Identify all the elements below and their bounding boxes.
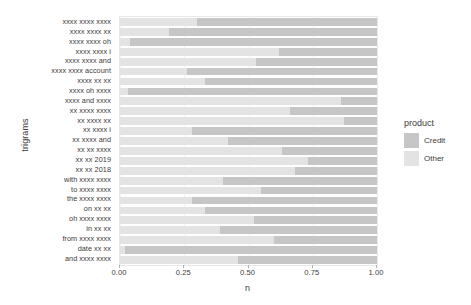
bar-segment-other <box>120 157 308 165</box>
bar-row <box>120 78 377 86</box>
x-tick-label: 0.50 <box>240 268 255 277</box>
legend-item: Credit <box>404 133 468 148</box>
bar-segment-other <box>120 117 344 125</box>
y-tick-label: xx xxxx and <box>18 136 114 143</box>
bar-row <box>120 216 377 224</box>
y-tick-label: xxxx xxxx xxxx <box>18 18 114 25</box>
bar-segment-credit <box>274 236 377 244</box>
bar-row <box>120 38 377 46</box>
bar-segment-credit <box>130 38 377 46</box>
bar-row <box>120 68 377 76</box>
y-tick-label: xxxx oh xxxx <box>18 87 114 94</box>
bar-segment-other <box>120 187 261 195</box>
bar-segment-other <box>120 177 223 185</box>
bar-row <box>120 207 377 215</box>
bar-row <box>120 127 377 135</box>
bar-segment-credit <box>197 18 377 26</box>
x-tick-label: 1.00 <box>369 268 384 277</box>
y-tick-label: to xxxx xxxx <box>18 186 114 193</box>
bar-segment-credit <box>125 246 377 254</box>
bar-segment-other <box>120 197 192 205</box>
bar-row <box>120 236 377 244</box>
y-tick-label: xx xxxx xxxx <box>18 107 114 114</box>
bar-row <box>120 147 377 155</box>
bar-segment-other <box>120 38 130 46</box>
bar-segment-credit <box>205 78 377 86</box>
bar-segment-other <box>120 48 279 56</box>
bar-row <box>120 157 377 165</box>
y-tick-label: xxxx xxxx account <box>18 67 114 74</box>
bar-segment-other <box>120 236 274 244</box>
bar-row <box>120 187 377 195</box>
x-tick-label: 0.00 <box>112 268 127 277</box>
bar-row <box>120 88 377 96</box>
bar-row <box>120 256 377 264</box>
plot-panel <box>119 16 378 266</box>
bar-segment-other <box>120 127 192 135</box>
bar-segment-credit <box>256 58 377 66</box>
bar-segment-credit <box>205 207 377 215</box>
bar-segment-other <box>120 137 228 145</box>
bar-segment-credit <box>228 137 377 145</box>
bar-segment-credit <box>261 187 377 195</box>
bar-segment-other <box>120 216 254 224</box>
gridline-vertical <box>377 17 378 265</box>
bar-segment-credit <box>192 127 377 135</box>
legend-items: CreditOther <box>404 133 468 166</box>
bar-row <box>120 177 377 185</box>
x-tick-label: 0.75 <box>304 268 319 277</box>
y-tick-label: xx xxxx xx <box>18 117 114 124</box>
bar-row <box>120 137 377 145</box>
y-tick-label: and xxxx xxxx <box>18 255 114 262</box>
bar-segment-credit <box>282 147 377 155</box>
x-axis-tick-labels: 0.000.250.500.751.00 <box>119 268 376 279</box>
x-tick-label: 0.25 <box>176 268 191 277</box>
bar-row <box>120 246 377 254</box>
legend-label: Other <box>424 154 444 163</box>
y-tick-label: xxxx xxxx oh <box>18 38 114 45</box>
bar-segment-credit <box>169 28 377 36</box>
bar-segment-other <box>120 28 169 36</box>
bar-segment-other <box>120 207 205 215</box>
bar-row <box>120 107 377 115</box>
bar-segment-other <box>120 88 128 96</box>
bar-row <box>120 28 377 36</box>
bar-segment-other <box>120 226 220 234</box>
y-tick-label: xxxx xx xx <box>18 77 114 84</box>
y-tick-label: xx xxxx i <box>18 126 114 133</box>
x-axis-title: n <box>119 283 376 293</box>
bar-row <box>120 167 377 175</box>
legend-item: Other <box>404 151 468 166</box>
y-tick-label: xxxx xxxx xx <box>18 28 114 35</box>
bar-segment-credit <box>220 226 377 234</box>
y-tick-label: xx xx xxxx <box>18 146 114 153</box>
bar-row <box>120 197 377 205</box>
bar-row <box>120 117 377 125</box>
bar-segment-credit <box>308 157 377 165</box>
bar-segment-credit <box>290 107 377 115</box>
bar-segment-credit <box>187 68 377 76</box>
legend-title: product <box>404 118 468 128</box>
bar-segment-other <box>120 78 205 86</box>
y-tick-label: xxxx and xxxx <box>18 97 114 104</box>
bar-segment-other <box>120 256 238 264</box>
y-tick-label: with xxxx xxxx <box>18 176 114 183</box>
bar-segment-other <box>120 167 295 175</box>
legend-label: Credit <box>424 136 445 145</box>
bar-row <box>120 226 377 234</box>
bar-row <box>120 18 377 26</box>
y-tick-label: on xx xx <box>18 205 114 212</box>
bar-segment-credit <box>295 167 377 175</box>
bar-row <box>120 58 377 66</box>
y-tick-label: xxxx xxxx i <box>18 48 114 55</box>
y-tick-label: oh xxxx xxxx <box>18 215 114 222</box>
bar-segment-credit <box>128 88 377 96</box>
stacked-bar-chart: trigrams xxxx xxxx xxxxxxxx xxxx xxxxxx … <box>0 0 471 305</box>
legend-color-swatch <box>404 151 419 166</box>
bar-segment-other <box>120 58 256 66</box>
bar-segment-credit <box>238 256 377 264</box>
bar-segment-credit <box>279 48 377 56</box>
bar-segment-credit <box>254 216 377 224</box>
bar-segment-other <box>120 68 187 76</box>
y-tick-label: from xxxx xxxx <box>18 235 114 242</box>
